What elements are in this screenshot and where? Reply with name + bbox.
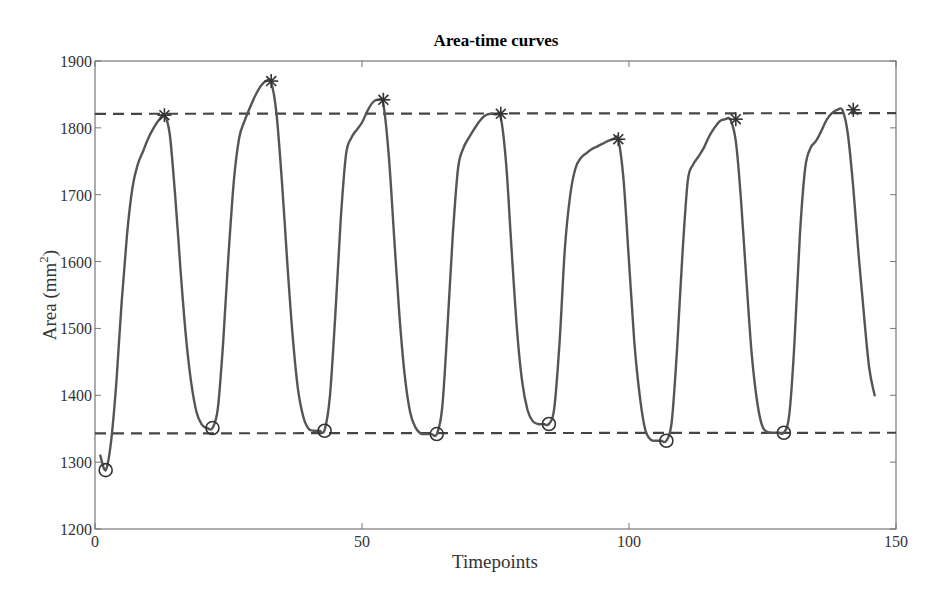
x-tick-label: 50 [354,533,370,550]
peak-asterisk-icon [157,108,171,122]
y-tick-label: 1600 [60,254,92,271]
x-tick-label: 150 [884,533,908,550]
mean-lines [95,113,896,433]
y-tick-label: 1800 [60,120,92,137]
x-axis-label: Timepoints [452,551,538,572]
area-time-chart: Area-time curves 12001300140015001600170… [0,0,947,603]
x-axis-ticks: 050100150 [91,61,908,550]
area-curve [100,79,874,470]
x-tick-label: 100 [617,533,641,550]
x-tick-label: 0 [91,533,99,550]
y-tick-label: 1200 [60,521,92,538]
plot-frame [95,61,896,529]
y-tick-label: 1300 [60,454,92,471]
y-axis-ticks: 12001300140015001600170018001900 [60,53,896,538]
peak-asterisk-icon [376,93,390,107]
peak-asterisk-icon [729,112,743,126]
svg-text:Area (mm2): Area (mm2) [36,250,61,340]
y-tick-label: 1500 [60,320,92,337]
plot-area: 12001300140015001600170018001900 0501001… [60,53,908,550]
peak-asterisk-icon [611,132,625,146]
y-axis-label-suffix: ) [39,250,61,256]
y-tick-label: 1400 [60,387,92,404]
y-axis-label-main: Area (mm [39,262,61,340]
chart-title: Area-time curves [434,31,559,50]
y-axis-label: Area (mm2) [36,250,61,340]
peak-asterisk-icon [846,103,860,117]
peak-asterisk-icon [494,107,508,121]
y-tick-label: 1700 [60,187,92,204]
peak-asterisk-icon [264,74,278,88]
y-tick-label: 1900 [60,53,92,70]
